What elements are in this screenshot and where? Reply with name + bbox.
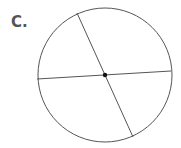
circle-diagram [0,0,181,148]
center-point [103,73,107,77]
